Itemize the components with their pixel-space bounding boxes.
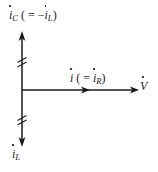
symbol-i: i (70, 71, 73, 85)
phasor-diagram-figure: iC ( = −iL) i ( = iR) iL V (0, 0, 158, 172)
phasor-dot-il: i (12, 148, 15, 160)
label-total-current: i ( = iR) (70, 72, 106, 86)
phasor-dot-ic: i (9, 9, 12, 21)
current-axis (19, 31, 26, 147)
symbol-ic: i (9, 8, 12, 22)
label-voltage: V (140, 80, 147, 92)
relation-symbol-i: i (93, 71, 96, 85)
phasor-dot-i: i (70, 72, 73, 84)
label-capacitive-current: iC ( = −iL) (9, 9, 57, 23)
phasor-dot-ic-relation: i (45, 9, 48, 21)
relation-symbol-ic: i (45, 8, 48, 22)
label-inductive-current: iL (12, 148, 20, 162)
phasor-dot-i-relation: i (93, 72, 96, 84)
subscript-il: L (15, 152, 20, 162)
relation-open-i: ( = (76, 71, 90, 85)
symbol-il: i (12, 147, 15, 161)
relation-sign-ic: − (38, 8, 45, 22)
phasor-dot-v: V (140, 80, 147, 92)
symbol-v: V (140, 79, 147, 93)
relation-close-i: ) (102, 71, 106, 85)
relation-close-ic: ) (53, 8, 57, 22)
voltage-axis (22, 86, 139, 93)
phasor-diagram-canvas (0, 0, 158, 172)
relation-open-ic: ( = (21, 8, 35, 22)
